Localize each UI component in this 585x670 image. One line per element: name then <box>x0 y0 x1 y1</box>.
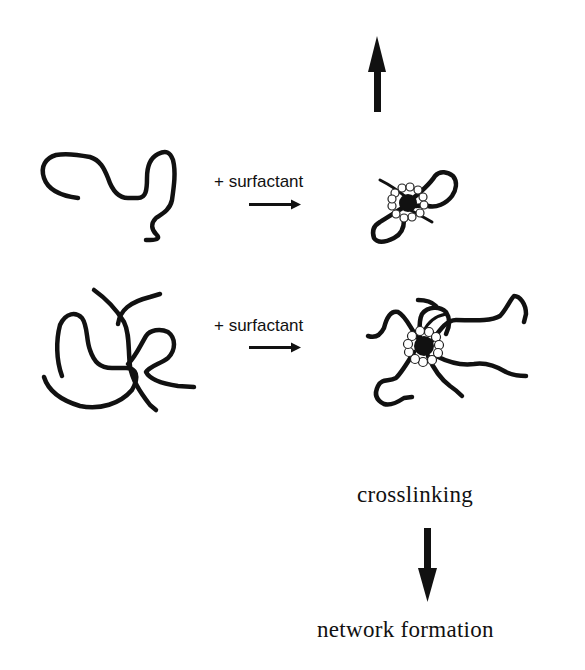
result-label: network formation <box>317 617 494 643</box>
reagent-label-row2: + surfactant <box>214 316 303 336</box>
right-arrow-icon <box>249 343 301 353</box>
micelle-multiple-chains <box>368 296 526 405</box>
right-arrow-icon <box>249 200 301 210</box>
polymer-chain-single <box>43 152 175 240</box>
reagent-label-row1: + surfactant <box>214 172 303 192</box>
polymer-chains-entangled <box>44 290 194 410</box>
micelle-single-chain <box>373 172 456 242</box>
down-arrow-icon <box>418 528 437 602</box>
process-label: crosslinking <box>357 482 473 508</box>
diagram-canvas: + surfactant + surfactant crosslinking n… <box>0 0 585 670</box>
up-arrow-icon <box>368 36 386 112</box>
